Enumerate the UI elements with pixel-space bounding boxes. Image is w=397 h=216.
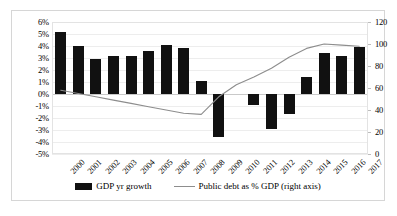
right-axis-tick-mark [368, 66, 371, 67]
legend-label-public-debt: Public debt as % GDP (right axis) [199, 181, 321, 191]
x-axis-tick-label: 2013 [297, 158, 315, 176]
right-axis-tick-mark [368, 110, 371, 111]
left-axis-tick-label: -5% [35, 150, 49, 159]
line-series-public-debt [52, 22, 368, 154]
left-axis-tick-label: -2% [35, 114, 49, 123]
x-axis-tick-label: 2015 [332, 158, 350, 176]
left-axis-tick-label: 4% [38, 42, 49, 51]
left-axis-tick-label: -3% [35, 126, 49, 135]
bar-swatch-icon [75, 183, 92, 190]
left-axis-tick-label: 1% [38, 78, 49, 87]
x-axis-tick-label: 2011 [262, 158, 280, 176]
x-axis-tick-label: 2017 [367, 158, 385, 176]
chart-container: 6%5%4%3%2%1%0%-1%-2%-3%-4%-5% 1201008060… [11, 10, 385, 201]
left-axis-tick-label: 6% [38, 18, 49, 27]
chart-legend: GDP yr growth Public debt as % GDP (righ… [12, 181, 384, 191]
legend-item-public-debt: Public debt as % GDP (right axis) [174, 181, 321, 191]
right-axis-tick-mark [368, 132, 371, 133]
right-axis-tick-label: 80 [375, 62, 383, 71]
right-axis-tick-label: 100 [375, 40, 387, 49]
right-axis-tick-mark [368, 44, 371, 45]
right-axis-tick-mark [368, 22, 371, 23]
left-axis-tick-label: 5% [38, 30, 49, 39]
right-axis-tick-label: 60 [375, 84, 383, 93]
left-axis-tick-label: 3% [38, 54, 49, 63]
left-axis-tick-label: -4% [35, 138, 49, 147]
left-axis-tick-label: 0% [38, 90, 49, 99]
x-axis-tick-label: 2005 [156, 158, 174, 176]
left-axis-tick-label: 2% [38, 66, 49, 75]
x-axis-tick-label: 2012 [279, 158, 297, 176]
right-axis-tick-mark [368, 154, 371, 155]
gridline [52, 154, 368, 155]
line-swatch-icon [174, 186, 195, 187]
x-axis-tick-label: 2002 [104, 158, 122, 176]
right-axis-tick-label: 20 [375, 128, 383, 137]
x-axis-tick-label: 2006 [174, 158, 192, 176]
right-axis-tick-label: 120 [375, 18, 387, 27]
legend-label-gdp-yr-growth: GDP yr growth [96, 181, 151, 191]
x-axis-tick-label: 2007 [191, 158, 209, 176]
left-axis-tick-label: -1% [35, 102, 49, 111]
x-axis-tick-label: 2010 [244, 158, 262, 176]
x-axis-tick-label: 2008 [209, 158, 227, 176]
x-axis-tick-label: 2004 [139, 158, 157, 176]
plot-area: 6%5%4%3%2%1%0%-1%-2%-3%-4%-5% 1201008060… [52, 22, 368, 154]
x-axis-tick-label: 2014 [314, 158, 332, 176]
x-axis-tick-label: 2001 [86, 158, 104, 176]
right-axis-tick-label: 40 [375, 106, 383, 115]
right-axis-tick-mark [368, 88, 371, 89]
x-axis-tick-label: 2000 [69, 158, 87, 176]
x-axis-tick-label: 2003 [121, 158, 139, 176]
x-axis-tick-label: 2009 [227, 158, 245, 176]
x-axis-tick-label: 2016 [349, 158, 367, 176]
legend-item-gdp-yr-growth: GDP yr growth [75, 181, 151, 191]
